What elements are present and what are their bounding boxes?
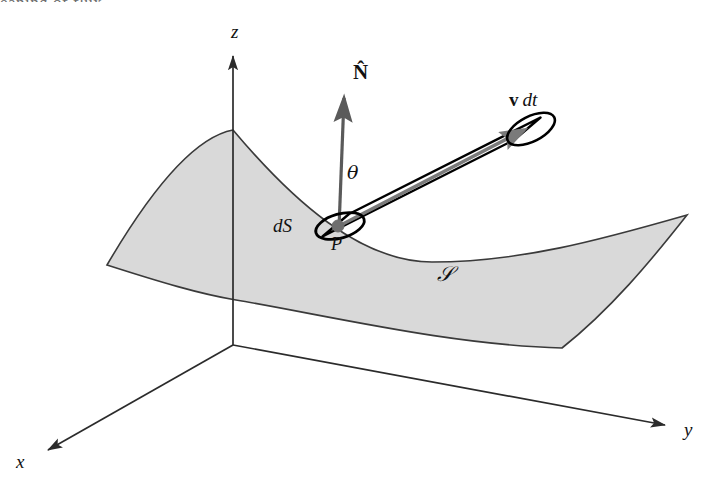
- velocity-arrow: [339, 130, 524, 226]
- area-element-label: dS: [273, 216, 292, 235]
- surface-label: 𝒮: [437, 264, 453, 285]
- time-differential-symbol: dt: [523, 89, 538, 110]
- tube-far-cap: [502, 106, 560, 152]
- angle-theta-label: θ: [347, 163, 358, 182]
- velocity-symbol: v: [509, 89, 519, 110]
- velocity-displacement-label: vdt: [509, 90, 537, 109]
- normal-vector: [339, 98, 344, 228]
- surface-patch: [107, 130, 687, 348]
- x-axis-line: [48, 345, 233, 450]
- normal-arrow-line: [339, 98, 344, 228]
- figure-canvas: eaning of flux: [0, 0, 715, 480]
- axis-label-z: z: [231, 22, 238, 41]
- surface-fill: [107, 130, 687, 348]
- y-axis-line: [233, 345, 665, 425]
- axis-label-x: x: [16, 452, 24, 471]
- axis-label-y: y: [684, 420, 692, 439]
- point-p-label: P: [331, 235, 342, 253]
- normal-vector-label: N̂: [353, 62, 368, 83]
- point-p-dot: [332, 220, 344, 232]
